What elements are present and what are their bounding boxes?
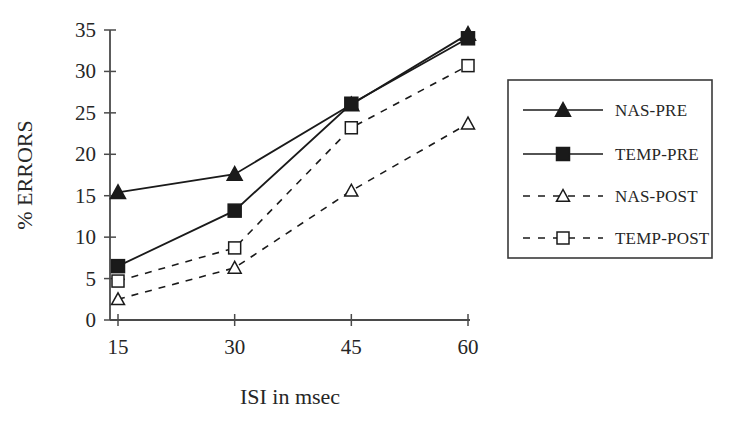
errors-vs-isi-line-chart: 05101520253035 15304560 % ERRORS ISI in … [0, 0, 736, 427]
legend-marker-sample [557, 232, 569, 244]
data-point-marker [345, 97, 358, 110]
data-point-marker [112, 260, 125, 273]
y-axis-title: % ERRORS [12, 120, 37, 229]
legend-item-label: TEMP-POST [615, 229, 710, 248]
x-tick-label: 30 [224, 335, 245, 359]
y-tick-label: 0 [86, 308, 97, 332]
legend-item-label: NAS-PRE [615, 101, 687, 120]
y-tick-label: 5 [86, 267, 97, 291]
x-tick-label: 60 [458, 335, 479, 359]
legend-marker-sample [557, 148, 570, 161]
y-tick-label: 25 [75, 101, 96, 125]
x-axis-title: ISI in msec [240, 384, 340, 409]
data-point-marker [228, 204, 241, 217]
y-tick-label: 30 [75, 59, 96, 83]
data-point-marker [462, 32, 475, 45]
legend-item-label: NAS-POST [615, 187, 698, 206]
y-tick-label: 10 [75, 225, 96, 249]
x-tick-label: 15 [108, 335, 129, 359]
data-point-marker [345, 122, 357, 134]
y-tick-label: 15 [75, 184, 96, 208]
x-tick-label: 45 [341, 335, 362, 359]
data-point-marker [112, 275, 124, 287]
data-point-marker [462, 60, 474, 72]
y-tick-label: 20 [75, 142, 96, 166]
data-point-marker [229, 242, 241, 254]
y-tick-label: 35 [75, 18, 96, 42]
legend-item-label: TEMP-PRE [615, 145, 699, 164]
